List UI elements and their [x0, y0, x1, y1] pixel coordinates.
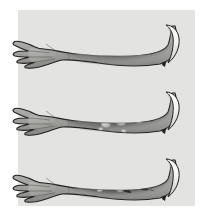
burn-degrees-figure: Degrees of Burn Injury — [0, 0, 210, 223]
illustration-canvas — [0, 0, 210, 223]
